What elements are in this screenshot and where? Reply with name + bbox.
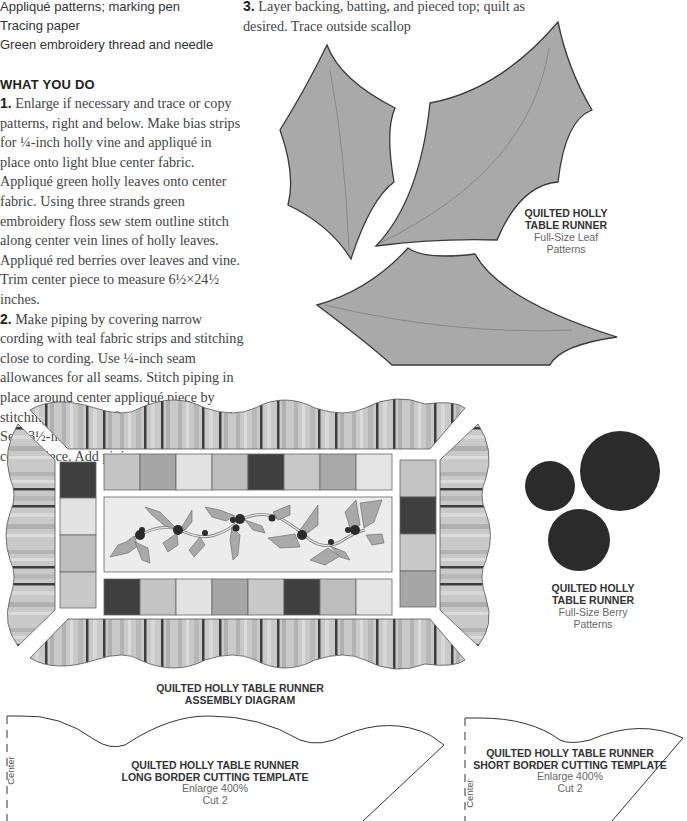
- caption-title: QUILTED HOLLY TABLE RUNNER: [120, 760, 310, 772]
- short-border-template-caption: QUILTED HOLLY TABLE RUNNER SHORT BORDER …: [470, 748, 670, 794]
- cut-note: Cut 2: [470, 783, 670, 795]
- enlarge-note: Enlarge 400%: [470, 771, 670, 783]
- enlarge-note: Enlarge 400%: [120, 783, 310, 795]
- center-label: Center: [464, 779, 475, 808]
- caption-title: QUILTED HOLLY TABLE RUNNER: [470, 748, 670, 760]
- cut-note: Cut 2: [120, 795, 310, 807]
- center-label: Center: [5, 756, 16, 785]
- border-templates-figure: [0, 0, 687, 821]
- long-border-template-caption: QUILTED HOLLY TABLE RUNNER LONG BORDER C…: [120, 760, 310, 806]
